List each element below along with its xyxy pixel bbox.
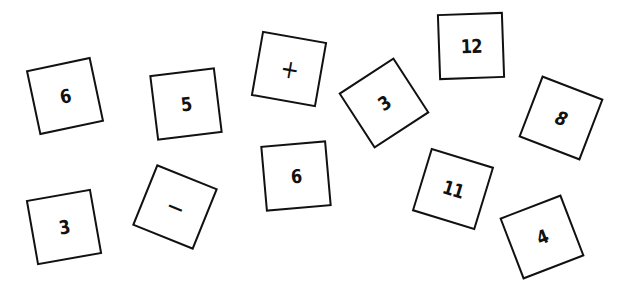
card[interactable]: 6 [260,140,332,212]
card-number: 11 [440,175,466,202]
card-number: 12 [460,35,482,58]
card-number: 6 [58,84,73,108]
card[interactable]: 5 [149,67,223,141]
card[interactable]: 3 [26,189,102,265]
card[interactable]: 4 [499,194,584,279]
card[interactable]: 3 [338,57,429,148]
card-operator-minus[interactable]: − [132,164,218,250]
card-operator-plus[interactable]: + [251,31,327,107]
card-number: 3 [57,215,71,238]
card[interactable]: 8 [518,75,603,160]
minus-symbol: − [161,190,189,224]
card[interactable]: 12 [437,12,505,80]
card-number: 4 [533,225,551,249]
card-number: 6 [290,165,302,188]
card-number: 3 [374,91,395,115]
card[interactable]: 6 [26,57,104,135]
plus-symbol: + [278,53,301,86]
card-number: 5 [179,92,192,115]
card-number: 8 [552,106,570,130]
card[interactable]: 11 [412,148,494,230]
